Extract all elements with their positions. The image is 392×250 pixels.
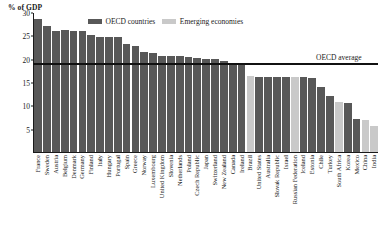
- bar-hungary: [105, 37, 113, 152]
- x-label-text: Austria: [53, 155, 59, 174]
- y-tick-mark-5: [31, 129, 34, 130]
- x-label-mexico: Mexico: [353, 155, 361, 235]
- x-label-sweden: Sweden: [43, 155, 51, 235]
- bar-canada: [229, 63, 237, 152]
- bar-australia: [264, 77, 272, 152]
- x-label-text: New Zealand: [221, 155, 227, 189]
- bar-greece: [132, 46, 140, 151]
- x-label-text: Sweden: [44, 155, 50, 175]
- bar-france: [34, 19, 42, 152]
- x-label-norway: Norway: [140, 155, 148, 235]
- bar-netherlands: [176, 56, 184, 151]
- x-label-finland: Finland: [87, 155, 95, 235]
- x-label-text: Estonia: [309, 155, 315, 174]
- bar-slovenia: [167, 56, 175, 152]
- bar-russian-federation: [291, 77, 299, 151]
- y-tick-mark-10: [31, 106, 34, 107]
- x-label-israel: Israel: [282, 155, 290, 235]
- x-label-poland: Poland: [185, 155, 193, 235]
- bar-series: [34, 13, 378, 152]
- x-label-south-africa: South Africa: [335, 155, 343, 235]
- x-label-text: Portugal: [115, 155, 121, 177]
- x-label-text: Brazil: [247, 155, 253, 171]
- x-label-greece: Greece: [132, 155, 140, 235]
- chart-container: % of GDP OECD countries Emerging economi…: [0, 0, 392, 250]
- y-tick-mark-25: [31, 36, 34, 37]
- x-label-text: Slovenia: [168, 155, 174, 177]
- bar-brazil: [247, 76, 255, 151]
- bar-turkey: [326, 96, 334, 151]
- x-label-text: Czech Republic: [194, 155, 200, 196]
- bar-poland: [185, 57, 193, 152]
- bar-chile: [317, 87, 325, 152]
- x-label-text: Korea: [345, 155, 351, 171]
- x-label-text: Luxembourg: [150, 155, 156, 188]
- x-label-canada: Canada: [229, 155, 237, 235]
- x-label-text: Mexico: [353, 155, 359, 175]
- bar-israel: [282, 77, 290, 151]
- bar-japan: [202, 59, 210, 152]
- x-label-switzerland: Switzerland: [211, 155, 219, 235]
- x-label-new-zealand: New Zealand: [220, 155, 228, 235]
- x-label-russian-federation: Russian Federation: [291, 155, 299, 235]
- bar-spain: [123, 44, 131, 151]
- x-label-austria: Austria: [52, 155, 60, 235]
- x-label-italy: Italy: [96, 155, 104, 235]
- bar-korea: [344, 103, 352, 152]
- x-label-korea: Korea: [344, 155, 352, 235]
- x-label-text: Chile: [318, 155, 324, 169]
- x-label-text: Netherlands: [176, 155, 182, 186]
- x-label-text: Turkey: [327, 155, 333, 173]
- plot-area: 30252015105: [33, 13, 378, 153]
- bar-switzerland: [211, 59, 219, 152]
- x-axis-line: [33, 152, 378, 153]
- bar-sweden: [43, 26, 51, 152]
- bar-mexico: [353, 119, 361, 151]
- x-label-text: Russian Federation: [291, 155, 297, 204]
- oecd-average-line: [33, 63, 378, 65]
- bar-slovak-republic: [273, 77, 281, 151]
- x-label-text: Slovak Republic: [274, 155, 280, 197]
- bar-united-states: [255, 77, 263, 152]
- x-label-text: Denmark: [70, 155, 76, 179]
- y-tick-mark-15: [31, 83, 34, 84]
- x-label-luxembourg: Luxembourg: [149, 155, 157, 235]
- x-label-text: Spain: [123, 155, 129, 170]
- bar-denmark: [70, 31, 78, 152]
- x-label-czech-republic: Czech Republic: [193, 155, 201, 235]
- x-label-text: Israel: [283, 155, 289, 169]
- x-label-text: United Kingdom: [159, 155, 165, 198]
- bar-finland: [87, 35, 95, 152]
- x-label-text: Italy: [97, 155, 103, 167]
- x-label-text: Australia: [265, 155, 271, 178]
- x-label-text: Norway: [141, 155, 147, 176]
- x-label-text: Poland: [185, 155, 191, 173]
- x-label-text: Greece: [132, 155, 138, 173]
- x-label-chile: Chile: [317, 155, 325, 235]
- x-label-text: Japan: [203, 155, 209, 170]
- x-label-text: Germany: [79, 155, 85, 179]
- bar-portugal: [114, 37, 122, 152]
- x-label-ireland: Ireland: [238, 155, 246, 235]
- x-label-text: Iceland: [300, 155, 306, 174]
- x-label-text: France: [35, 155, 41, 172]
- y-tick-mark-20: [31, 59, 34, 60]
- x-label-australia: Australia: [264, 155, 272, 235]
- x-label-france: France: [34, 155, 42, 235]
- x-axis-labels: FranceSwedenAustriaBelgiumDenmarkGermany…: [34, 155, 378, 235]
- x-label-text: China: [362, 155, 368, 170]
- x-label-slovenia: Slovenia: [167, 155, 175, 235]
- bar-united-kingdom: [158, 56, 166, 151]
- x-label-denmark: Denmark: [70, 155, 78, 235]
- bar-india: [370, 126, 378, 151]
- oecd-average-label: OECD average: [316, 53, 362, 62]
- x-label-china: China: [362, 155, 370, 235]
- x-label-germany: Germany: [79, 155, 87, 235]
- bar-ireland: [238, 64, 246, 152]
- x-label-united-kingdom: United Kingdom: [158, 155, 166, 235]
- x-label-turkey: Turkey: [326, 155, 334, 235]
- bar-norway: [140, 52, 148, 152]
- x-label-iceland: Iceland: [300, 155, 308, 235]
- x-label-belgium: Belgium: [61, 155, 69, 235]
- x-label-text: Canada: [230, 155, 236, 174]
